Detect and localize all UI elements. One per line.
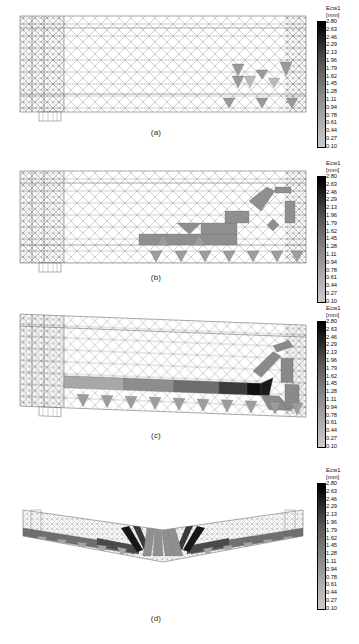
colorbar-tick-list: 2.80 2.63 2.46 2.29 2.13 1.96 1.79 1.62 … [326, 174, 356, 303]
colorbar-tick: 0.94 [326, 405, 337, 411]
colorbar-tick: 1.45 [326, 236, 337, 242]
panel-d: Ecw1 [mm] 2.80 2.63 2.46 2.29 2.13 1.96 … [0, 462, 359, 644]
colorbar-title: Ecw1 [326, 468, 341, 474]
colorbar-tick: 1.28 [326, 244, 337, 250]
colorbar-tick: 2.80 [326, 19, 337, 25]
colorbar-tick: 0.78 [326, 413, 337, 419]
colorbar-tick: 1.62 [326, 374, 337, 380]
colorbar-title: Ecw1 [326, 306, 341, 312]
colorbar-tick: 0.94 [326, 105, 337, 111]
colorbar-tick: 1.28 [326, 389, 337, 395]
colorbar-tick: 0.27 [326, 436, 337, 442]
colorbar-tick: 2.46 [326, 335, 337, 341]
colorbar-title: Ecw1 [326, 6, 341, 12]
colorbar-tick: 1.96 [326, 520, 337, 526]
colorbar-a: Ecw1 [mm] 2.80 2.63 2.46 2.29 2.13 1.96 … [311, 6, 359, 148]
panel-c: Ecw1 [mm] 2.80 2.63 2.46 2.29 2.13 1.96 … [0, 300, 359, 462]
colorbar-tick: 1.62 [326, 74, 337, 80]
colorbar-tick: 1.11 [326, 559, 336, 565]
colorbar-tick: 0.10 [326, 606, 337, 612]
colorbar-tick: 1.11 [326, 397, 336, 403]
mesh-plot-c [17, 312, 309, 432]
colorbar-tick: 0.44 [326, 428, 337, 434]
colorbar-tick: 1.79 [326, 66, 337, 72]
panel-caption-b: (b) [0, 273, 312, 282]
colorbar-title: Ecw1 [326, 161, 341, 167]
colorbar-tick: 0.27 [326, 291, 337, 297]
colorbar-tick: 2.13 [326, 350, 337, 356]
mesh-svg-c [17, 312, 309, 432]
colorbar-tick: 0.27 [326, 136, 337, 142]
colorbar-gradient-strip [317, 321, 326, 448]
colorbar-tick: 0.44 [326, 283, 337, 289]
colorbar-tick: 2.63 [326, 327, 337, 333]
mesh-svg-d [17, 474, 309, 614]
colorbar-tick: 1.45 [326, 81, 337, 87]
colorbar-tick: 2.46 [326, 497, 337, 503]
colorbar-tick: 1.62 [326, 536, 337, 542]
colorbar-tick: 1.28 [326, 551, 337, 557]
colorbar-tick: 0.61 [326, 120, 337, 126]
colorbar-tick: 2.63 [326, 182, 337, 188]
colorbar-tick: 1.96 [326, 213, 337, 219]
panel-caption-d: (d) [0, 614, 312, 623]
colorbar-tick: 1.96 [326, 358, 337, 364]
colorbar-tick: 2.63 [326, 27, 337, 33]
colorbar-tick: 1.62 [326, 229, 337, 235]
colorbar-b: Ecw1 [mm] 2.80 2.63 2.46 2.29 2.13 1.96 … [311, 161, 359, 303]
colorbar-tick: 2.46 [326, 190, 337, 196]
colorbar-tick: 0.61 [326, 275, 337, 281]
colorbar-c: Ecw1 [mm] 2.80 2.63 2.46 2.29 2.13 1.96 … [311, 306, 359, 448]
colorbar-tick-list: 2.80 2.63 2.46 2.29 2.13 1.96 1.79 1.62 … [326, 481, 356, 610]
figure-container: Ecw1 [mm] 2.80 2.63 2.46 2.29 2.13 1.96 … [0, 0, 359, 644]
colorbar-tick: 1.79 [326, 366, 337, 372]
colorbar-tick: 2.29 [326, 197, 337, 203]
colorbar-tick: 2.13 [326, 50, 337, 56]
colorbar-tick: 2.13 [326, 205, 337, 211]
colorbar-tick: 2.29 [326, 42, 337, 48]
colorbar-tick-list: 2.80 2.63 2.46 2.29 2.13 1.96 1.79 1.62 … [326, 19, 356, 148]
colorbar-gradient-strip [317, 483, 326, 610]
colorbar-tick: 0.94 [326, 260, 337, 266]
colorbar-tick: 0.44 [326, 128, 337, 134]
colorbar-tick: 1.11 [326, 97, 336, 103]
mesh-plot-b [17, 167, 309, 274]
mesh-plot-d [17, 474, 309, 614]
colorbar-tick: 0.94 [326, 567, 337, 573]
colorbar-tick: 0.27 [326, 598, 337, 604]
panel-caption-a: (a) [0, 128, 312, 137]
colorbar-tick: 0.78 [326, 575, 337, 581]
colorbar-tick: 2.46 [326, 35, 337, 41]
colorbar-tick: 2.80 [326, 319, 337, 325]
colorbar-d: Ecw1 [mm] 2.80 2.63 2.46 2.29 2.13 1.96 … [311, 468, 359, 610]
colorbar-tick: 1.96 [326, 58, 337, 64]
colorbar-tick: 1.11 [326, 252, 336, 258]
colorbar-tick: 1.28 [326, 89, 337, 95]
colorbar-gradient-strip [317, 21, 326, 148]
colorbar-tick: 0.10 [326, 144, 337, 150]
colorbar-tick: 2.63 [326, 489, 337, 495]
panel-caption-c: (c) [0, 431, 312, 440]
colorbar-tick: 0.44 [326, 590, 337, 596]
colorbar-tick: 2.13 [326, 512, 337, 518]
colorbar-tick: 2.80 [326, 174, 337, 180]
colorbar-tick: 0.78 [326, 268, 337, 274]
colorbar-tick: 1.45 [326, 381, 337, 387]
colorbar-tick: 0.61 [326, 420, 337, 426]
panel-a: Ecw1 [mm] 2.80 2.63 2.46 2.29 2.13 1.96 … [0, 0, 359, 155]
mesh-svg-a [17, 12, 309, 124]
colorbar-tick: 2.80 [326, 481, 337, 487]
colorbar-tick: 0.10 [326, 444, 337, 450]
colorbar-tick: 0.78 [326, 113, 337, 119]
mesh-svg-b [17, 167, 309, 274]
colorbar-tick: 1.45 [326, 543, 337, 549]
mesh-plot-a [17, 12, 309, 124]
colorbar-gradient-strip [317, 176, 326, 303]
panel-b: Ecw1 [mm] 2.80 2.63 2.46 2.29 2.13 1.96 … [0, 155, 359, 300]
colorbar-tick: 2.29 [326, 504, 337, 510]
colorbar-tick: 1.79 [326, 221, 337, 227]
colorbar-tick: 2.29 [326, 342, 337, 348]
colorbar-tick-list: 2.80 2.63 2.46 2.29 2.13 1.96 1.79 1.62 … [326, 319, 356, 448]
colorbar-tick: 1.79 [326, 528, 337, 534]
colorbar-tick: 0.61 [326, 582, 337, 588]
